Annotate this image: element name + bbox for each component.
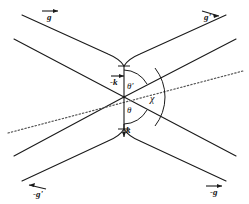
band-line-upper-left-inner: [14, 39, 124, 97]
figure-canvas: [0, 0, 249, 204]
band-line-lower-right-inner: [124, 97, 236, 156]
band-line-upper-right-inner: [124, 39, 236, 97]
band-line-lower-outer-left: [22, 129, 124, 181]
origin-point: [123, 96, 126, 99]
angle-label-theta-prime: θ': [127, 82, 133, 91]
angle-label-theta: θ: [127, 106, 131, 115]
vector-label-minus-g-prime: -g': [33, 190, 43, 199]
vector-label-g-prime: g': [204, 13, 211, 22]
arrow-head-minus-k: [119, 74, 124, 78]
scattering-geometry-figure: g g' -g' -g -k k θ' θ χ: [0, 0, 249, 204]
band-line-lower-outer-right: [124, 129, 226, 181]
vector-label-minus-k: -k: [110, 78, 118, 87]
vector-label-k: k: [126, 126, 131, 135]
vector-label-g: g: [47, 13, 52, 22]
arrow-head-minus-g-prime: [29, 183, 35, 187]
vector-label-minus-g: -g: [210, 188, 218, 197]
band-line-upper-outer-right: [124, 15, 226, 66]
band-line-upper-outer: [22, 15, 124, 66]
arrow-head-g: [53, 9, 58, 13]
band-line-lower-left-inner: [14, 97, 124, 156]
angle-label-chi: χ: [150, 94, 154, 104]
